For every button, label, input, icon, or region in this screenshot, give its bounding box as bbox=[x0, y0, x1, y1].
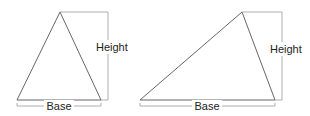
acute-triangle-figure: Height Base bbox=[17, 12, 128, 114]
obtuse-triangle-figure: Height Base bbox=[140, 12, 302, 114]
height-label: Height bbox=[96, 41, 128, 53]
height-bracket bbox=[60, 12, 108, 100]
height-label: Height bbox=[270, 43, 302, 55]
base-label: Base bbox=[194, 100, 219, 112]
obtuse-triangle bbox=[140, 12, 275, 100]
acute-triangle bbox=[17, 12, 101, 100]
triangle-diagram: Height Base Height Base bbox=[0, 0, 310, 116]
base-label: Base bbox=[46, 100, 71, 112]
